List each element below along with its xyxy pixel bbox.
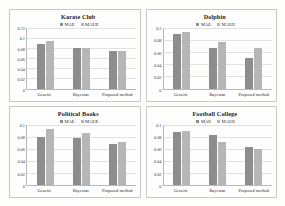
chart-panel-football-college: Football College MAE MAUE 0.10.080.060.0…	[146, 106, 278, 199]
bar-mae	[73, 48, 81, 88]
legend-label-maue: MAUE	[85, 119, 99, 124]
y-axis-tick-label: 0.1	[156, 26, 161, 31]
x-axis-tick-label: Proposed method	[99, 90, 136, 99]
bar-mae	[245, 58, 253, 88]
plot-wrap: 0.10.080.060.040.020	[150, 125, 273, 187]
bar-maue	[82, 133, 90, 185]
bars-row	[164, 28, 273, 89]
legend-item-maue: MAUE	[217, 119, 235, 124]
bar-maue	[218, 42, 226, 89]
bar-group	[164, 125, 200, 186]
chart-panel-karate-club: Karate Club MAE MAUE 0.120.10.080.060.04…	[9, 9, 141, 102]
bar-mae	[245, 147, 253, 185]
legend-label-mae: MAE	[64, 22, 74, 27]
x-axis-tick-label: Proposed method	[236, 90, 273, 99]
y-axis-tick-label: 0	[23, 184, 25, 189]
bar-mae	[73, 138, 81, 185]
y-axis-tick-label: 0.08	[154, 134, 162, 139]
x-axis-tick-label: Bayesian	[63, 90, 100, 99]
y-axis-tick-label: 0.08	[154, 38, 162, 43]
legend-swatch-maue	[217, 120, 220, 123]
bar-maue	[46, 129, 54, 185]
bar-group	[164, 28, 200, 89]
y-axis-tick-label: 0	[23, 87, 25, 92]
x-axis-tick-label: Bayesian	[199, 90, 236, 99]
y-axis-tick-label: 0.1	[20, 36, 25, 41]
x-axis: GeneticBayesianProposed method	[163, 186, 273, 195]
y-axis: 0.10.080.060.040.020	[150, 125, 163, 187]
y-axis-tick-label: 0.02	[154, 171, 162, 176]
y-axis: 0.10.080.060.040.020	[13, 125, 26, 187]
x-axis-tick-label: Genetic	[163, 186, 200, 195]
y-axis-tick-label: 0.02	[154, 75, 162, 80]
chart-legend: MAE MAUE	[160, 118, 273, 125]
bar-mae	[37, 137, 45, 185]
x-axis-tick-label: Proposed method	[99, 186, 136, 195]
bar-maue	[46, 41, 54, 89]
bar-group	[63, 28, 99, 89]
y-axis-tick-label: 0.02	[17, 171, 25, 176]
y-axis: 0.120.10.080.060.040.020	[13, 28, 26, 90]
legend-swatch-mae	[60, 120, 63, 123]
y-axis-tick-label: 0.1	[156, 122, 161, 127]
bar-group	[99, 125, 135, 186]
bar-maue	[254, 149, 262, 185]
legend-item-mae: MAE	[196, 119, 211, 124]
y-axis-tick-label: 0.06	[17, 147, 25, 152]
y-axis-tick-label: 0.06	[154, 50, 162, 55]
x-axis-tick-label: Genetic	[26, 90, 63, 99]
plot-area	[26, 125, 136, 187]
legend-swatch-mae	[196, 23, 199, 26]
y-axis-tick-label: 0.04	[17, 67, 25, 72]
bars-row	[164, 125, 273, 186]
bar-group	[99, 28, 135, 89]
y-axis-tick-label: 0	[159, 87, 161, 92]
bar-group	[200, 28, 236, 89]
plot-area	[26, 28, 136, 90]
x-axis-tick-label: Genetic	[163, 90, 200, 99]
bar-mae	[173, 132, 181, 185]
x-axis-tick-label: Bayesian	[199, 186, 236, 195]
chart-title: Political Books	[21, 110, 136, 118]
legend-label-maue: MAUE	[85, 22, 99, 27]
legend-swatch-mae	[196, 120, 199, 123]
bar-mae	[209, 135, 217, 185]
plot-wrap: 0.10.080.060.040.020	[13, 125, 136, 187]
chart-legend: MAE MAUE	[23, 21, 136, 28]
x-axis: GeneticBayesianProposed method	[163, 90, 273, 99]
legend-label-mae: MAE	[201, 22, 211, 27]
x-axis: GeneticBayesianProposed method	[26, 186, 136, 195]
chart-panel-political-books: Political Books MAE MAUE 0.10.080.060.04…	[9, 106, 141, 199]
y-axis-tick-label: 0.12	[17, 26, 25, 31]
y-axis-tick-label: 0.08	[17, 134, 25, 139]
bar-mae	[109, 51, 117, 88]
bar-group	[27, 125, 63, 186]
chart-panel-dolphin: Dolphin MAE MAUE 0.10.080.060.040.020 Ge…	[146, 9, 278, 102]
y-axis-tick-label: 0	[159, 184, 161, 189]
bar-mae	[109, 144, 117, 185]
legend-label-maue: MAUE	[222, 22, 236, 27]
bar-mae	[37, 44, 45, 89]
y-axis: 0.10.080.060.040.020	[150, 28, 163, 90]
legend-item-maue: MAUE	[217, 22, 235, 27]
chart-grid: Karate Club MAE MAUE 0.120.10.080.060.04…	[9, 9, 277, 198]
bar-group	[200, 125, 236, 186]
y-axis-tick-label: 0.02	[17, 77, 25, 82]
legend-item-maue: MAUE	[81, 22, 99, 27]
legend-swatch-maue	[217, 23, 220, 26]
plot-wrap: 0.10.080.060.040.020	[150, 28, 273, 90]
bar-maue	[182, 32, 190, 89]
y-axis-tick-label: 0.08	[17, 46, 25, 51]
chart-legend: MAE MAUE	[160, 21, 273, 28]
bars-row	[27, 125, 136, 186]
y-axis-tick-label: 0.1	[20, 122, 25, 127]
bar-maue	[182, 131, 190, 185]
legend-item-mae: MAE	[60, 22, 75, 27]
legend-label-mae: MAE	[201, 119, 211, 124]
y-axis-tick-label: 0.04	[154, 159, 162, 164]
chart-title: Karate Club	[21, 13, 136, 21]
legend-swatch-mae	[60, 23, 63, 26]
legend-swatch-maue	[81, 120, 84, 123]
bar-group	[236, 28, 272, 89]
plot-area	[163, 125, 273, 187]
